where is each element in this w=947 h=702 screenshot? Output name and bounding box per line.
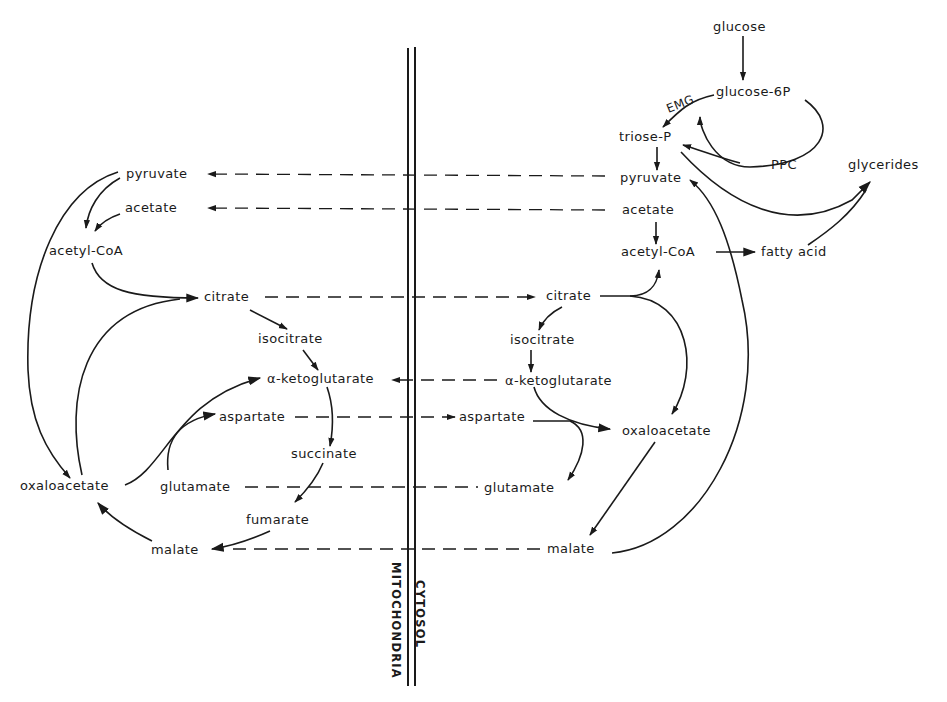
cyto-ppc-label: PPC: [771, 158, 797, 172]
citrate-to-isocitrate-arrow: [250, 310, 287, 329]
aspartate-to-glutamate-arrow: [533, 421, 583, 480]
mito-succinate-label: succinate: [291, 447, 357, 461]
acetate-transport: [208, 208, 605, 210]
malate-to-pyruvate-arrow: [612, 180, 748, 553]
cyto-glycerides-label: glycerides: [848, 158, 919, 172]
cyto-acetate-label: acetate: [622, 203, 674, 217]
cyto-triose-p-label: triose-P: [619, 130, 672, 144]
oxaloacetate-to-akg-arrow: [125, 378, 260, 485]
mito-isocitrate-label: isocitrate: [258, 332, 323, 346]
cyto-glucose-6p-label: glucose-6P: [716, 85, 791, 99]
oxaloacetate-to-malate-arrow: [590, 442, 655, 535]
cyto-alpha-ketoglutarate-label: α-ketoglutarate: [505, 374, 612, 388]
malate-to-oxaloacetate-arrow: [98, 503, 152, 541]
mito-oxaloacetate-label: oxaloacetate: [20, 479, 109, 493]
acetate-to-acetylcoa-arrow: [95, 214, 120, 231]
citrate-to-acetylcoa-arrow: [600, 270, 659, 296]
fattyacid-to-glycerides-line: [808, 190, 866, 245]
acetylcoa-to-citrate-arrow: [92, 263, 198, 298]
cyto-fatty-acid-label: fatty acid: [761, 245, 827, 259]
isocitrate-to-akg-arrow: [303, 350, 318, 370]
mito-pyruvate-label: pyruvate: [126, 167, 187, 181]
cyto-aspartate-label: aspartate: [459, 410, 525, 424]
pathway-arrows: [0, 0, 947, 702]
mito-alpha-ketoglutarate-label: α-ketoglutarate: [267, 372, 374, 386]
pyruvate-to-oxaloacetate-arrow: [28, 172, 118, 478]
cytosol-compartment-label: CYTOSOL: [413, 580, 427, 648]
mito-glutamate-label: glutamate: [160, 480, 231, 494]
cyto-oxaloacetate-label: oxaloacetate: [622, 424, 711, 438]
mitochondria-compartment-label: MITOCHONDRIA: [389, 562, 403, 679]
mito-acetylcoa-label: acetyl-CoA: [49, 244, 123, 258]
mito-citrate-label: citrate: [204, 290, 249, 304]
cyto-glutamate-label: glutamate: [484, 481, 555, 495]
cyto-acetylcoa-label: acetyl-CoA: [621, 245, 695, 259]
mito-acetate-label: acetate: [125, 201, 177, 215]
mito-fumarate-label: fumarate: [246, 513, 309, 527]
citrate-to-oxaloacetate-arrow: [630, 296, 687, 414]
pyruvate-transport: [208, 174, 605, 176]
glutamate-to-aspartate-arrow: [168, 414, 215, 470]
metabolic-pathway-diagram: pyruvate acetate acetyl-CoA citrate isoc…: [0, 0, 947, 702]
citrate-to-isocitrate-arrow-cytosol: [539, 307, 562, 330]
mito-malate-label: malate: [151, 543, 199, 557]
fumarate-to-malate-arrow: [212, 531, 270, 549]
mito-aspartate-label: aspartate: [219, 410, 285, 424]
succinate-to-fumarate-arrow: [295, 463, 323, 502]
cyto-citrate-label: citrate: [546, 289, 591, 303]
cyto-isocitrate-label: isocitrate: [510, 333, 575, 347]
cyto-pyruvate-label: pyruvate: [620, 171, 681, 185]
cyto-malate-label: malate: [547, 542, 595, 556]
cyto-glucose-label: glucose: [713, 20, 766, 34]
